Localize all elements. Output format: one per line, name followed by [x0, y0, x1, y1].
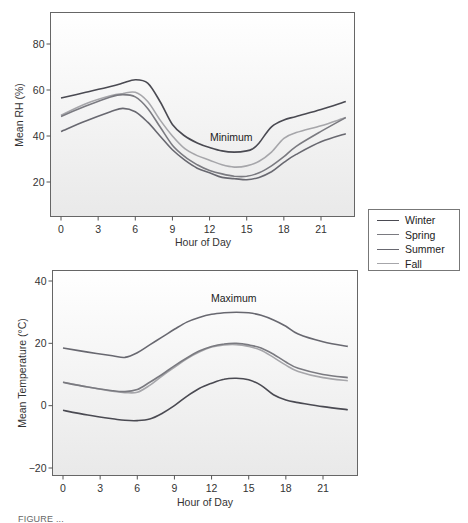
legend-item-summer: Summer: [377, 242, 459, 257]
x-tick-label: 21: [317, 482, 329, 494]
y-tick-label: 20: [33, 176, 45, 188]
rh-y-axis-label: Mean RH (%): [13, 83, 25, 147]
x-tick-label: 6: [132, 223, 138, 235]
y-tick-label: 80: [33, 38, 45, 50]
figure-caption: FIGURE ...: [18, 514, 64, 523]
y-tick-label: 0: [41, 399, 47, 411]
legend-line-winter-icon: [377, 220, 399, 221]
legend-line-fall-icon: [377, 263, 399, 264]
legend-label: Winter: [405, 214, 435, 226]
x-tick-label: 6: [134, 482, 140, 494]
x-tick-label: 18: [280, 482, 292, 494]
temperature-chart: −2002040 036912151821 Maximum Mean Tempe…: [16, 271, 358, 509]
rh-chart: 20406080 036912151821 Minimum Mean RH (%…: [13, 13, 355, 249]
y-tick-label: 60: [33, 84, 45, 96]
temp-y-axis: −2002040: [29, 275, 53, 474]
temp-x-axis: 036912151821: [60, 476, 329, 494]
legend-label: Summer: [405, 243, 445, 255]
rh-annotation-minimum: Minimum: [210, 131, 253, 143]
rh-plot-area: [51, 13, 355, 217]
x-tick-label: 21: [315, 223, 327, 235]
legend-line-spring-icon: [377, 234, 399, 235]
rh-x-axis-label: Hour of Day: [175, 236, 232, 248]
legend-line-summer-icon: [377, 249, 399, 250]
temp-plot-area: [53, 271, 358, 476]
y-tick-label: 40: [35, 275, 47, 287]
x-tick-label: 15: [241, 223, 253, 235]
x-tick-label: 0: [58, 223, 64, 235]
legend-label: Spring: [405, 229, 435, 241]
y-tick-label: 20: [35, 337, 47, 349]
x-tick-label: 3: [97, 482, 103, 494]
x-tick-label: 18: [278, 223, 290, 235]
x-tick-label: 9: [172, 482, 178, 494]
legend-label: Fall: [405, 258, 422, 270]
x-tick-label: 9: [170, 223, 176, 235]
temp-x-axis-label: Hour of Day: [177, 496, 234, 508]
temp-y-axis-label: Mean Temperature (°C): [16, 318, 28, 428]
x-tick-label: 15: [243, 482, 255, 494]
legend-item-spring: Spring: [377, 228, 459, 243]
rh-x-axis: 036912151821: [58, 217, 327, 235]
x-tick-label: 12: [206, 482, 218, 494]
x-tick-label: 0: [60, 482, 66, 494]
x-tick-label: 12: [204, 223, 216, 235]
legend: Winter Spring Summer Fall: [368, 209, 460, 271]
y-tick-label: −20: [29, 462, 47, 474]
x-tick-label: 3: [95, 223, 101, 235]
temp-annotation-maximum: Maximum: [211, 292, 257, 304]
legend-item-winter: Winter: [377, 213, 459, 228]
rh-y-axis: 20406080: [33, 38, 51, 188]
legend-item-fall: Fall: [377, 257, 459, 272]
y-tick-label: 40: [33, 130, 45, 142]
